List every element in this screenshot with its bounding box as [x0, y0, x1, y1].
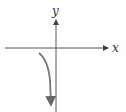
x-axis-label: x: [112, 42, 119, 54]
graph-canvas: [0, 0, 126, 112]
y-axis-label: y: [52, 5, 59, 17]
function-curve: [39, 53, 51, 105]
